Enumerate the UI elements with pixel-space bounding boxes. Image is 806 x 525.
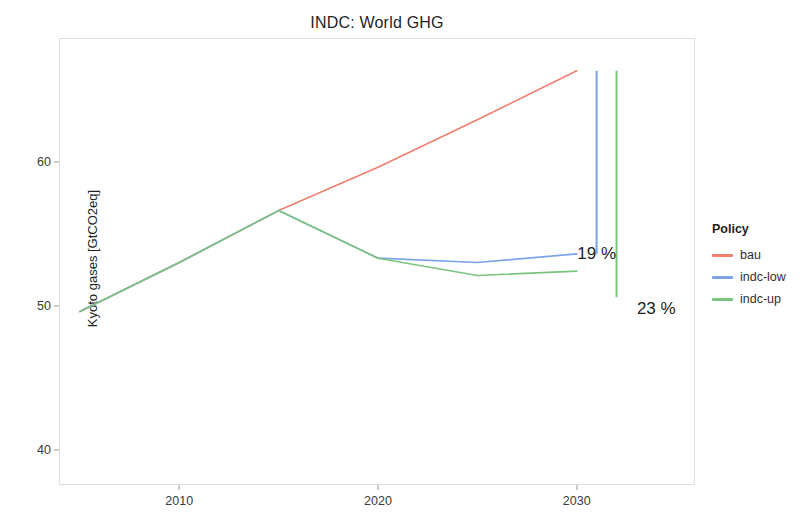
y-tick-mark	[54, 305, 59, 306]
y-tick-label: 50	[37, 299, 51, 313]
legend-item-label: indc-up	[740, 292, 781, 306]
x-tick-label: 2020	[364, 494, 392, 508]
chart-title: INDC: World GHG	[59, 14, 695, 32]
x-tick-label: 2030	[563, 494, 591, 508]
legend-item-indc-low[interactable]: indc-low	[712, 266, 802, 288]
legend-item-list: bauindc-lowindc-up	[712, 244, 802, 310]
legend: Policy bauindc-lowindc-up	[712, 222, 802, 310]
legend-item-label: indc-low	[740, 270, 786, 284]
y-tick-mark	[54, 161, 59, 162]
x-tick-label: 2010	[165, 494, 193, 508]
legend-color-swatch-icon	[712, 298, 733, 301]
y-tick-label: 60	[37, 155, 51, 169]
chart-annotation: 23 %	[637, 299, 676, 319]
chart-container: INDC: World GHG Kyoto gases [GtCO2eq] 40…	[0, 0, 806, 525]
series-line-indc-low	[80, 211, 577, 312]
legend-color-swatch-icon	[712, 254, 733, 257]
y-tick-label: 40	[37, 443, 51, 457]
legend-item-indc-up[interactable]: indc-up	[712, 288, 802, 310]
legend-item-bau[interactable]: bau	[712, 244, 802, 266]
y-tick-mark	[54, 449, 59, 450]
legend-item-label: bau	[740, 248, 761, 262]
legend-color-swatch-icon	[712, 276, 733, 279]
plot-panel: Kyoto gases [GtCO2eq] 405060201020202030…	[59, 38, 695, 485]
chart-annotation: 19 %	[577, 244, 616, 264]
legend-title: Policy	[712, 222, 802, 236]
